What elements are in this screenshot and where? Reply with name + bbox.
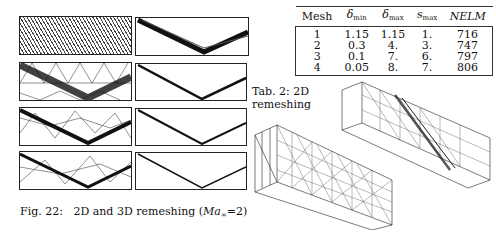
header-nelm: NELM: [443, 7, 493, 27]
table-row: 40.058.7.806: [296, 62, 493, 76]
mesh-panel-4: [19, 151, 132, 190]
header-delta-max: δmax: [375, 7, 411, 27]
table-caption-line1: Tab. 2: 2D: [252, 85, 311, 98]
header-mesh: Mesh: [296, 7, 339, 27]
mesh-panel-3: [19, 107, 132, 146]
caption-math: Ma: [203, 205, 221, 218]
table-caption: Tab. 2: 2D remeshing: [252, 85, 311, 111]
remeshing-table: Mesh δmin δmax smax NELM 11.151.151.716 …: [295, 6, 493, 76]
header-delta-min: δmin: [339, 7, 375, 27]
caption-label: Fig. 22:: [20, 205, 63, 218]
figure-caption: Fig. 22: 2D and 3D remeshing (Ma∞=2): [20, 205, 247, 219]
solution-panel-3: [135, 108, 247, 146]
caption-eq: =2): [227, 205, 248, 218]
mesh-panel-2: [19, 62, 132, 101]
table-header: Mesh δmin δmax smax NELM: [296, 7, 493, 27]
mesh-panel-1: [19, 16, 132, 55]
caption-text: 2D and 3D remeshing (: [73, 205, 203, 218]
solution-panel-2: [135, 63, 247, 101]
solution-panel-1: [135, 17, 249, 56]
mesh-3d-right: [340, 80, 495, 190]
header-s-max: smax: [411, 7, 443, 27]
table-caption-line2: remeshing: [252, 98, 311, 111]
table-row: 11.151.151.716: [296, 27, 493, 41]
solution-panel-4: [135, 152, 247, 190]
